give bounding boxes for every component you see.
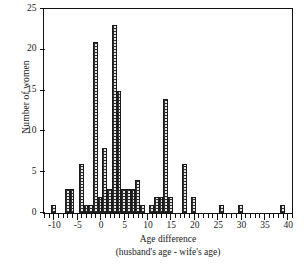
bar-series (44, 9, 292, 213)
x-axis-tick-label: 15 (167, 220, 177, 230)
x-axis-title: Age difference (husband's age - wife's a… (43, 233, 293, 258)
x-axis-minor-tick (208, 213, 209, 218)
x-axis-minor-tick (49, 213, 50, 218)
x-axis-minor-tick (142, 213, 143, 218)
histogram-bar (140, 205, 145, 213)
x-axis-minor-tick (128, 213, 129, 218)
x-axis-tick-label: 5 (122, 220, 127, 230)
x-axis-tick-label: 25 (213, 220, 223, 230)
x-axis-tick-label: -10 (48, 220, 61, 230)
x-axis-minor-tick (95, 213, 96, 218)
x-axis-minor-tick (212, 213, 213, 218)
x-axis-minor-tick (184, 213, 185, 218)
x-axis-minor-tick (72, 213, 73, 218)
x-axis-major-tick: -10 (53, 213, 54, 220)
x-axis-major-tick: -5 (77, 213, 78, 220)
x-axis-minor-tick (63, 213, 64, 218)
y-axis-tick: 15 (40, 90, 45, 91)
x-axis-major-tick: 15 (170, 213, 171, 220)
y-axis-tick-label: 25 (27, 3, 37, 13)
x-axis-minor-tick (255, 213, 256, 218)
x-axis-minor-tick (231, 213, 232, 218)
x-axis-minor-tick (119, 213, 120, 218)
x-axis-minor-tick (180, 213, 181, 218)
x-axis-minor-tick (138, 213, 139, 218)
x-axis-minor-tick (273, 213, 274, 218)
x-axis-minor-tick (236, 213, 237, 218)
y-axis-tick: 20 (40, 49, 45, 50)
histogram-bar (93, 42, 98, 213)
x-axis-minor-tick (86, 213, 87, 218)
x-axis-minor-tick (81, 213, 82, 218)
x-axis-minor-tick (292, 213, 293, 218)
y-axis-tick: 5 (40, 171, 45, 172)
x-axis-minor-tick (67, 213, 68, 218)
y-axis-title: Number of women (21, 17, 31, 177)
histogram-bar (219, 205, 224, 213)
y-axis-tick-label: 0 (32, 207, 37, 217)
histogram-bar (191, 197, 196, 213)
x-axis-minor-tick (114, 213, 115, 218)
histogram-bar (280, 205, 285, 213)
x-axis-minor-tick (133, 213, 134, 218)
x-axis-minor-tick (278, 213, 279, 218)
x-axis-minor-tick (156, 213, 157, 218)
y-axis-tick-label: 5 (32, 166, 37, 176)
x-axis-tick-label: 20 (190, 220, 200, 230)
histogram-bar (168, 197, 173, 213)
x-axis-minor-tick (91, 213, 92, 218)
x-axis-minor-tick (44, 213, 45, 218)
y-axis-tick-label: 10 (27, 125, 37, 135)
y-axis-tick: 25 (40, 8, 45, 9)
x-axis-minor-tick (161, 213, 162, 218)
x-axis-major-tick: 10 (147, 213, 148, 220)
x-axis-minor-tick (250, 213, 251, 218)
x-axis-minor-tick (198, 213, 199, 218)
x-axis-tick-label: 40 (284, 220, 294, 230)
x-axis-major-tick: 35 (264, 213, 265, 220)
x-axis-major-tick: 40 (287, 213, 288, 220)
x-axis-minor-tick (259, 213, 260, 218)
x-axis-tick-label: 10 (143, 220, 153, 230)
x-axis-minor-tick (105, 213, 106, 218)
x-axis-major-tick: 0 (100, 213, 101, 220)
x-axis-title-line2: (husband's age - wife's age) (43, 246, 293, 259)
x-axis-minor-tick (110, 213, 111, 218)
x-axis-minor-tick (269, 213, 270, 218)
x-axis-tick-label: 30 (237, 220, 247, 230)
x-axis-title-line1: Age difference (43, 233, 293, 246)
x-axis-major-tick: 20 (194, 213, 195, 220)
x-axis-minor-tick (152, 213, 153, 218)
x-axis-minor-tick (189, 213, 190, 218)
x-axis-minor-tick (58, 213, 59, 218)
x-axis-minor-tick (226, 213, 227, 218)
x-axis-minor-tick (175, 213, 176, 218)
y-axis-tick-label: 20 (27, 43, 37, 53)
y-axis-tick-label: 15 (27, 84, 37, 94)
x-axis-minor-tick (245, 213, 246, 218)
histogram-bar (238, 205, 243, 213)
plot-area: 0510152025-10-50510152025303540 (43, 8, 293, 214)
histogram-bar (182, 164, 187, 213)
x-axis-major-tick: 25 (217, 213, 218, 220)
y-axis-tick: 10 (40, 130, 45, 131)
x-axis-tick-label: -5 (74, 220, 82, 230)
histogram-bar (70, 189, 75, 213)
x-axis-minor-tick (283, 213, 284, 218)
x-axis-tick-label: 0 (99, 220, 104, 230)
x-axis-minor-tick (203, 213, 204, 218)
x-axis-minor-tick (222, 213, 223, 218)
histogram-bar (51, 205, 56, 213)
x-axis-tick-label: 35 (260, 220, 270, 230)
histogram-figure: Number of women 0510152025-10-5051015202… (0, 0, 304, 269)
x-axis-minor-tick (166, 213, 167, 218)
x-axis-major-tick: 30 (241, 213, 242, 220)
x-axis-major-tick: 5 (124, 213, 125, 220)
